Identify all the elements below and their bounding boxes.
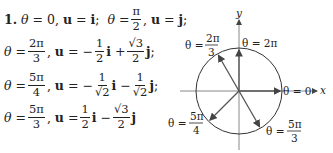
vector-theta-2pi-3: [219, 56, 240, 92]
label-theta-2pi-3: θ = 2π 3: [185, 32, 220, 58]
svg-text:3: 3: [208, 46, 215, 58]
svg-text:2π: 2π: [206, 32, 220, 44]
svg-text:θ =: θ =: [168, 117, 186, 129]
x-axis-label: x: [320, 84, 326, 96]
label-theta-5pi-3: θ = 5π 3: [266, 118, 302, 144]
svg-text:5π: 5π: [190, 110, 204, 122]
svg-text:3: 3: [291, 132, 298, 144]
svg-text:5π: 5π: [288, 118, 302, 130]
label-theta-2pi: θ = 2π: [242, 37, 277, 49]
y-axis-label: y: [235, 7, 243, 19]
vector-theta-5pi-4: [210, 91, 239, 120]
svg-text:θ =: θ =: [266, 125, 284, 137]
svg-text:4: 4: [193, 124, 200, 136]
unit-circle-figure: x y θ = 0 θ = 2π θ = 2π 3 θ = 5π 4 θ = 5…: [0, 0, 333, 153]
label-theta-5pi-4: θ = 5π 4: [168, 110, 204, 136]
label-theta-0: θ = 0: [283, 85, 311, 97]
vector-theta-5pi-3: [239, 91, 260, 127]
svg-text:θ =: θ =: [185, 39, 203, 51]
